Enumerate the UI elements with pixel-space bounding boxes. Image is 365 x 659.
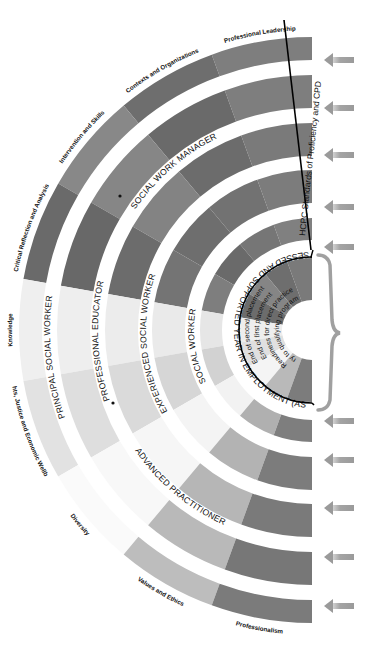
curly-bracket-icon (318, 255, 340, 410)
segment-experienced-social-worker-4 (105, 294, 141, 366)
left-arrow-icon (324, 101, 354, 115)
left-arrow-icon (324, 501, 354, 515)
domain-label: Professionalism (235, 619, 284, 634)
segment-social-worker-4 (152, 302, 187, 358)
segment-professional-educator-0 (225, 75, 312, 121)
segment-professional-educator-5 (61, 369, 120, 458)
left-arrow-icon (324, 200, 354, 214)
career-framework-diagram: Professional LeadershipContexts and Orga… (0, 0, 365, 659)
segment-experienced-social-worker-8 (241, 494, 312, 537)
left-arrow-icon (324, 414, 354, 428)
left-arrow-icon (324, 53, 354, 67)
domain-label: Knowledge (6, 313, 13, 347)
left-arrow-icon (324, 453, 354, 467)
segment-professional-educator-3 (61, 203, 120, 292)
left-arrow-icon (324, 148, 354, 162)
segment-principal-social-worker-8 (212, 584, 312, 623)
segment-asye-4 (200, 311, 223, 350)
segment-professional-educator-4 (57, 286, 93, 375)
left-arrow-icon (324, 599, 354, 613)
bullet-dot (118, 194, 121, 197)
segment-experienced-social-worker-0 (241, 123, 312, 166)
curly-bracket (318, 255, 340, 410)
bullet-dot (111, 401, 114, 404)
segment-professional-educator-8 (225, 539, 312, 585)
left-arrow-icon (324, 550, 354, 564)
left-arrow-icon (324, 240, 354, 254)
